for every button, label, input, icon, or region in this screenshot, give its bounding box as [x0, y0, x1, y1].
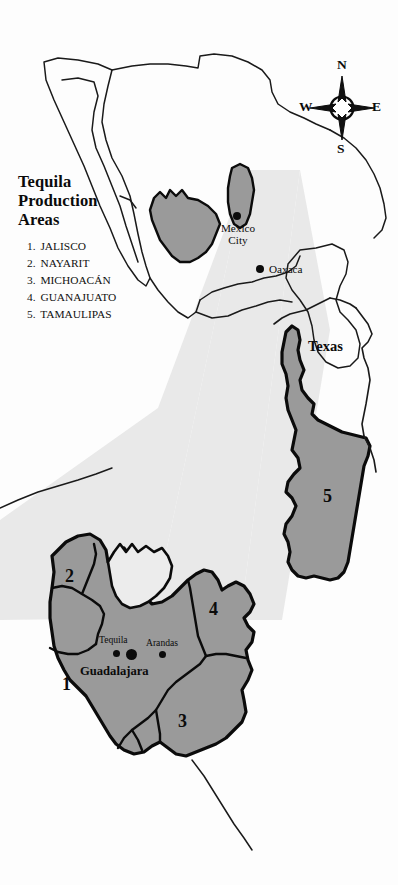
legend-title-line-2: Production: [18, 191, 168, 210]
city-dot-oaxaca: [256, 265, 264, 273]
legend-item-michoacan: 3. MICHOACÁN: [27, 272, 168, 289]
legend-item-label: NAYARIT: [40, 257, 89, 269]
region-number-jalisco: 1: [62, 675, 71, 693]
legend-item-label: MICHOACÁN: [40, 274, 110, 286]
legend-item-jalisco: 1. JALISCO: [27, 238, 168, 255]
legend-item-guanajuato: 4. GUANAJUATO: [27, 289, 168, 306]
region-number-michoacan: 3: [178, 712, 187, 730]
region-number-tamaulipas: 5: [323, 487, 332, 505]
legend-item-number: 1.: [27, 240, 36, 252]
city-label-arandas: Arandas: [146, 638, 178, 648]
city-dot-tequila: [113, 650, 120, 657]
legend-title-line-3: Areas: [18, 210, 168, 229]
city-label-tequila: Tequila: [99, 635, 128, 645]
city-label-mexico-city-line-1: Mexico: [214, 223, 262, 235]
map-figure: Tequila Production Areas 1. JALISCO 2. N…: [0, 0, 398, 885]
legend-title: Tequila Production Areas: [18, 172, 168, 229]
legend-item-number: 5.: [27, 308, 36, 320]
city-dot-guadalajara: [126, 649, 137, 660]
legend-item-label: TAMAULIPAS: [40, 308, 111, 320]
city-label-mexico-city-line-2: City: [214, 235, 262, 247]
legend-item-tamaulipas: 5. TAMAULIPAS: [27, 306, 168, 323]
state-label-texas: Texas: [308, 339, 343, 354]
city-dot-arandas: [159, 651, 166, 658]
legend-item-nayarit: 2. NAYARIT: [27, 255, 168, 272]
compass-north-label: N: [337, 58, 347, 72]
compass-south-label: S: [337, 142, 345, 156]
compass-west-label: W: [299, 100, 313, 114]
city-label-guadalajara: Guadalajara: [80, 665, 149, 678]
legend-item-number: 4.: [27, 291, 36, 303]
legend-list: 1. JALISCO 2. NAYARIT 3. MICHOACÁN 4. GU…: [18, 238, 168, 322]
region-number-guanajuato: 4: [209, 600, 218, 618]
legend-title-line-1: Tequila: [18, 172, 168, 191]
legend-item-number: 3.: [27, 274, 36, 286]
legend-item-label: GUANAJUATO: [40, 291, 116, 303]
city-label-mexico-city: Mexico City: [214, 223, 262, 246]
compass-east-label: E: [372, 100, 381, 114]
legend-block: Tequila Production Areas 1. JALISCO 2. N…: [18, 172, 168, 323]
city-label-oaxaca: Oaxaca: [269, 264, 303, 276]
legend-item-number: 2.: [27, 257, 36, 269]
compass-rose: N E S W: [296, 58, 388, 158]
legend-item-label: JALISCO: [40, 240, 86, 252]
city-dot-mexico-city: [233, 212, 241, 220]
region-number-nayarit: 2: [65, 567, 74, 585]
